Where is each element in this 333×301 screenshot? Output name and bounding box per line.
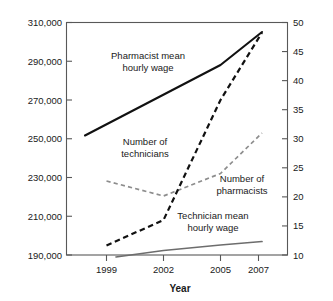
left-tick-label-190000: 190,000 [28,250,62,261]
annotation-technicians-line1: Number of [123,136,168,147]
right-tick-label-40: 40 [293,75,304,86]
annotation-pharmacist-wage-line2: hourly wage [122,62,173,73]
right-tick-label-35: 35 [293,104,304,115]
right-tick-label-45: 45 [293,46,304,57]
left-tick-label-290000: 290,000 [28,56,62,67]
x-axis-title: Year [169,283,190,294]
annotation-number-of-technicians: Number of technicians [121,136,169,159]
left-axis-ticks [67,23,73,256]
annotation-technician-wage-line2: hourly wage [187,222,238,233]
annotation-pharmacist-wage-line1: Pharmacist mean [111,50,185,61]
right-tick-label-25: 25 [293,162,304,173]
annotation-pharmacist-mean-hourly-wage: Pharmacist mean hourly wage [111,50,185,73]
line-chart: 190,000 210,000 230,000 250,000 270,000 … [0,0,333,301]
x-tick-label-2002: 2002 [153,264,174,275]
annotation-technician-wage-line1: Technician mean [177,210,248,221]
x-tick-label-2005: 2005 [210,264,231,275]
annotation-pharmacists-line2: pharmacists [216,185,267,196]
left-tick-label-270000: 270,000 [28,95,62,106]
right-axis-labels: 10 15 20 25 30 35 40 45 50 [293,17,304,261]
left-tick-label-250000: 250,000 [28,133,62,144]
left-tick-label-310000: 310,000 [28,17,62,28]
right-tick-label-50: 50 [293,17,304,28]
right-tick-label-10: 10 [293,250,304,261]
annotation-number-of-pharmacists: Number of pharmacists [216,173,267,196]
right-tick-label-30: 30 [293,133,304,144]
series-line-pharmacist-mean-hourly-wage [85,32,262,136]
x-tick-label-1999: 1999 [96,264,117,275]
right-axis-ticks [282,23,288,256]
x-axis-labels: 1999 2002 2005 2007 [96,264,269,275]
right-tick-label-15: 15 [293,220,304,231]
left-axis-labels: 190,000 210,000 230,000 250,000 270,000 … [28,17,62,261]
annotation-pharmacists-line1: Number of [220,173,265,184]
annotation-technicians-line2: technicians [121,148,169,159]
x-tick-label-2007: 2007 [248,264,269,275]
chart-container: 190,000 210,000 230,000 250,000 270,000 … [0,0,333,301]
right-tick-label-20: 20 [293,191,304,202]
left-tick-label-210000: 210,000 [28,211,62,222]
left-tick-label-230000: 230,000 [28,172,62,183]
annotation-technician-mean-hourly-wage: Technician mean hourly wage [177,210,248,233]
